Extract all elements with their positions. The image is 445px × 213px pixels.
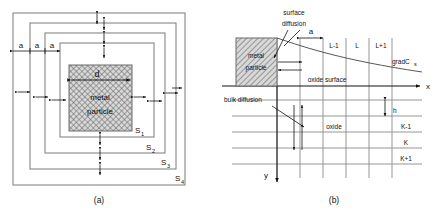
- row-label-K-minus-1: K-1: [401, 123, 412, 130]
- shell-label-4: S: [175, 174, 180, 183]
- x-axis-label: x: [426, 82, 430, 91]
- row-label-K: K: [404, 139, 409, 146]
- flux-arrows-left: [18, 92, 66, 100]
- panel-a-caption: (a): [94, 195, 105, 205]
- metal-particle-b-label-line2: particle: [246, 64, 267, 72]
- spacing-label-a-1: a: [19, 41, 24, 50]
- panel-b: x y metal particle surface diffusion: [222, 0, 445, 213]
- panel-b-drawing: x y metal particle surface diffusion: [222, 0, 445, 213]
- oxide-surface-label: oxide surface: [308, 76, 347, 83]
- spacing-label-a-2: a: [35, 41, 40, 50]
- shell-subscript-3: 3: [167, 163, 170, 169]
- flux-arrows-right: [134, 88, 182, 101]
- concentration-gradient-curve: [277, 38, 422, 72]
- gradient-concentration-subscript: s: [414, 61, 417, 67]
- shell-labels: S 1 S 2 S 3 S 4: [135, 126, 184, 185]
- bulk-diffusion-arrows: [294, 105, 302, 150]
- oxide-label: oxide: [326, 123, 342, 130]
- surface-diffusion-label-line1: surface: [283, 9, 305, 16]
- y-axis-label: y: [264, 171, 268, 180]
- metal-particle-label-line2: particle: [87, 107, 113, 116]
- metal-particle-label-line1: metal: [90, 93, 110, 102]
- shell-subscript-1: 1: [141, 131, 144, 137]
- shell-label-3: S: [161, 158, 166, 167]
- row-label-K-plus-1: K+1: [400, 155, 412, 162]
- flux-arrows-top: [97, 14, 104, 58]
- shell-label-2: S: [146, 143, 151, 152]
- metal-particle-b: [236, 38, 277, 86]
- diameter-label: d: [94, 69, 99, 79]
- panel-a-drawing: d metal particle a a a: [0, 0, 222, 213]
- surface-diffusion-label-line2: diffusion: [282, 20, 306, 27]
- column-label-L-plus-1: L+1: [375, 42, 386, 49]
- panel-b-caption: (b): [329, 195, 340, 205]
- shell-label-1: S: [135, 126, 140, 135]
- column-label-L-minus-1: L-1: [329, 42, 339, 49]
- surface-diffusion-arrows: [278, 62, 302, 70]
- shell-subscript-2: 2: [152, 148, 155, 154]
- spacing-label-a: a: [309, 27, 314, 36]
- column-label-L: L: [355, 42, 359, 49]
- spacing-label-h: h: [393, 107, 397, 114]
- figure-container: d metal particle a a a: [0, 0, 445, 213]
- metal-particle-b-label-line1: metal: [248, 52, 264, 59]
- shell-subscript-4: 4: [181, 179, 184, 185]
- bulk-diffusion-label: bulk diffusion: [224, 96, 262, 103]
- gradient-concentration-label: gradC: [392, 58, 410, 66]
- panel-a: d metal particle a a a: [0, 0, 222, 213]
- spacing-label-a-3: a: [50, 41, 55, 50]
